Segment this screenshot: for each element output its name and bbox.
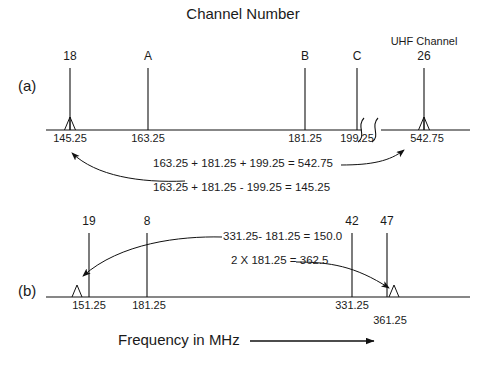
- channel-label-a-3: C: [353, 50, 362, 63]
- channel-label-b-2: 42: [345, 215, 358, 228]
- marker-wedge-151: [72, 285, 82, 297]
- marker-wedge-145: [65, 117, 76, 130]
- channel-label-a-1: A: [144, 50, 152, 63]
- leader-to-542: [341, 150, 404, 165]
- channel-label-b-0: 19: [82, 215, 95, 228]
- tick-label-b-0: 151.25: [72, 300, 106, 312]
- leader-b-to-151: [83, 237, 222, 276]
- tick-label-a-0: 145.25: [53, 133, 87, 145]
- tick-label-b-1: 181.25: [132, 300, 166, 312]
- tick-label-b-3: 361.25: [373, 315, 407, 327]
- channel-label-a-4: 26: [417, 50, 430, 63]
- figure-title: Channel Number: [186, 6, 299, 22]
- panel-b-label: (b): [18, 283, 36, 299]
- tick-label-b-2: 331.25: [335, 300, 369, 312]
- equation-diff-a: 163.25 + 181.25 - 199.25 = 145.25: [153, 181, 330, 193]
- equation-double-b: 2 X 181.25 = 362.5: [231, 254, 329, 266]
- channel-label-b-1: 8: [144, 215, 151, 228]
- equation-diff-b: 331.25- 181.25 = 150.0: [223, 230, 342, 242]
- marker-wedge-542: [419, 117, 430, 130]
- marker-wedge-361: [389, 285, 399, 297]
- uhf-channel-caption: UHF Channel: [391, 36, 458, 48]
- tick-label-a-4: 542.75: [410, 133, 444, 145]
- tick-label-a-3: 199.25: [340, 133, 374, 145]
- channel-label-a-2: B: [301, 50, 309, 63]
- panel-a-label: (a): [18, 78, 36, 94]
- channel-label-b-3: 47: [380, 215, 393, 228]
- equation-sum-a: 163.25 + 181.25 + 199.25 = 542.75: [153, 157, 333, 169]
- channel-label-a-0: 18: [63, 50, 76, 63]
- x-axis-title: Frequency in MHz: [118, 332, 240, 348]
- frequency-spectrum-figure: Channel Number (a) (b) 18 A B C UHF Chan…: [0, 0, 486, 367]
- tick-label-a-2: 181.25: [288, 133, 322, 145]
- tick-label-a-1: 163.25: [131, 133, 165, 145]
